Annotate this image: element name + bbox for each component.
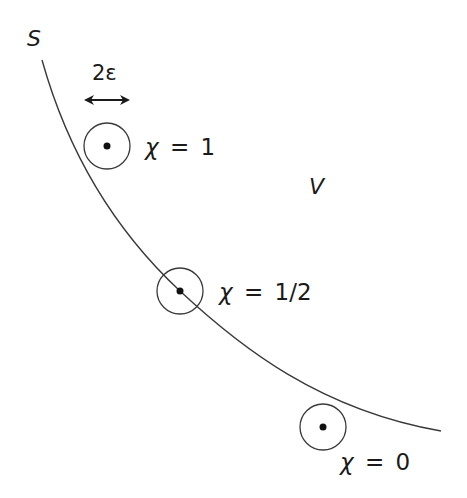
point-dot: [177, 288, 184, 295]
point-dot: [320, 424, 327, 431]
width-label: 2ε: [92, 61, 117, 85]
diagram-canvas: S V 2ε χ = 1 χ = 1/2 χ = 0: [0, 0, 467, 498]
chi-label: χ = 1/2: [217, 279, 312, 305]
chi-label: χ = 1: [143, 134, 215, 160]
point-dot: [104, 143, 111, 150]
point-outside: χ = 0: [300, 404, 410, 475]
chi-label: χ = 0: [338, 449, 410, 475]
point-inside: χ = 1: [84, 123, 215, 169]
point-on-surface: χ = 1/2: [157, 268, 312, 314]
surface-label: S: [27, 26, 41, 51]
region-label: V: [309, 174, 326, 199]
surface-curve: [42, 60, 441, 431]
